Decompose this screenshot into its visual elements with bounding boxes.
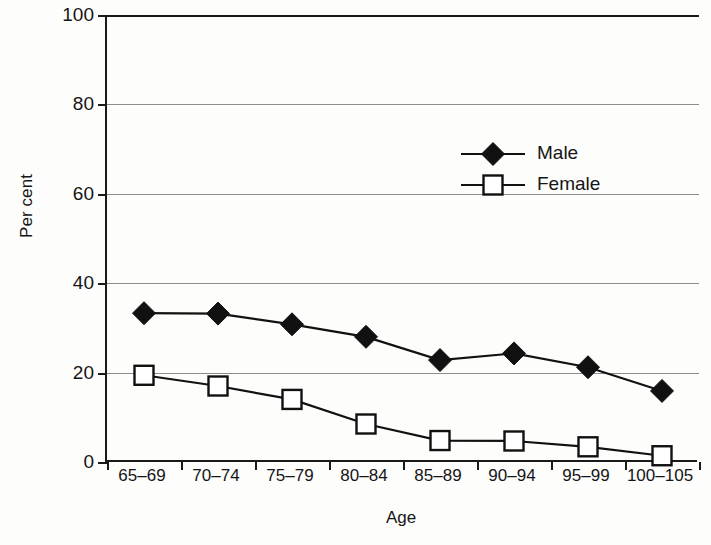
y-tick-mark bbox=[98, 15, 107, 17]
data-point-marker bbox=[653, 446, 672, 465]
x-tick-mark bbox=[403, 462, 405, 470]
y-tick-label: 0 bbox=[83, 451, 94, 473]
x-tick-label: 85–89 bbox=[414, 466, 461, 486]
data-point-marker bbox=[281, 313, 304, 336]
y-axis-title: Per cent bbox=[17, 156, 37, 256]
x-tick-mark bbox=[477, 462, 479, 470]
x-tick-mark bbox=[551, 462, 553, 470]
x-tick-label: 100–105 bbox=[627, 466, 693, 486]
data-point-marker bbox=[577, 356, 600, 379]
y-tick-label: 60 bbox=[73, 183, 94, 205]
y-tick-mark bbox=[98, 194, 107, 196]
y-tick-mark bbox=[98, 104, 107, 106]
data-series-layer bbox=[107, 15, 699, 462]
data-point-marker bbox=[357, 415, 376, 434]
data-point-marker bbox=[133, 302, 156, 325]
y-tick-mark bbox=[98, 462, 107, 464]
x-tick-label: 70–74 bbox=[192, 466, 239, 486]
data-point-marker bbox=[503, 342, 526, 365]
legend-label: Female bbox=[537, 173, 600, 195]
legend-item-male[interactable]: Male bbox=[459, 139, 649, 170]
y-tick-label: 20 bbox=[73, 362, 94, 384]
data-point-marker bbox=[431, 431, 450, 450]
data-point-marker bbox=[429, 349, 452, 372]
x-tick-mark bbox=[255, 462, 257, 470]
data-point-marker bbox=[209, 377, 228, 396]
x-tick-label: 95–99 bbox=[562, 466, 609, 486]
plot-area: 020406080100 MaleFemale bbox=[105, 15, 697, 462]
open-square-icon bbox=[459, 170, 527, 201]
x-tick-mark bbox=[329, 462, 331, 470]
data-point-marker bbox=[651, 379, 674, 402]
data-point-marker bbox=[505, 431, 524, 450]
y-tick-mark bbox=[98, 373, 107, 375]
x-tick-label: 75–79 bbox=[266, 466, 313, 486]
data-point-marker bbox=[355, 325, 378, 348]
x-tick-label: 65–69 bbox=[118, 466, 165, 486]
y-tick-label: 100 bbox=[62, 4, 94, 26]
chart-container: Per cent 020406080100 MaleFemale 65–6970… bbox=[0, 0, 711, 545]
legend-label: Male bbox=[537, 142, 578, 164]
x-tick-mark bbox=[181, 462, 183, 470]
x-tick-label: 80–84 bbox=[340, 466, 387, 486]
x-tick-mark bbox=[699, 462, 701, 470]
legend-item-female[interactable]: Female bbox=[459, 170, 649, 201]
y-tick-mark bbox=[98, 283, 107, 285]
y-tick-label: 40 bbox=[73, 272, 94, 294]
data-point-marker bbox=[207, 302, 230, 325]
data-point-marker bbox=[135, 366, 154, 385]
data-point-marker bbox=[283, 390, 302, 409]
x-axis-title: Age bbox=[105, 508, 697, 528]
chart-legend: MaleFemale bbox=[459, 139, 649, 201]
data-point-marker bbox=[579, 437, 598, 456]
y-tick-label: 80 bbox=[73, 93, 94, 115]
filled-diamond-icon bbox=[459, 139, 527, 170]
x-tick-label: 90–94 bbox=[488, 466, 535, 486]
series-female bbox=[135, 366, 672, 465]
x-tick-mark bbox=[107, 462, 109, 470]
